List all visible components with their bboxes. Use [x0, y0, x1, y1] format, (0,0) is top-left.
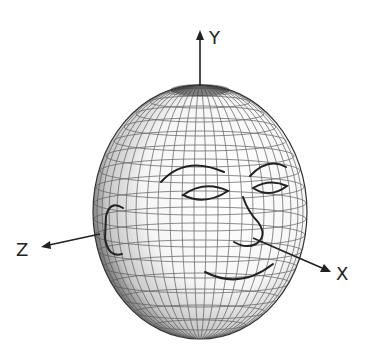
y-arrowhead [196, 30, 204, 40]
x-axis-label: X [336, 263, 348, 284]
y-axis-label: Y [208, 27, 221, 48]
head-diagram: Y Z X [0, 0, 370, 354]
z-axis [49, 234, 100, 245]
z-arrowhead [41, 241, 51, 249]
z-axis-label: Z [16, 239, 28, 260]
